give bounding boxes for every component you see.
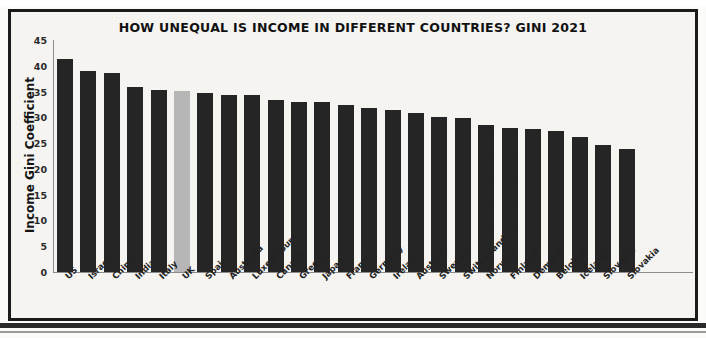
bar-series: [57, 40, 693, 272]
y-axis-line: [53, 40, 54, 273]
page-top-margin: [0, 0, 706, 6]
plot-area: 051015202530354045: [53, 40, 693, 273]
page-bottom-rule-secondary: [0, 331, 706, 333]
bar-india: [127, 87, 143, 272]
bar-austria: [408, 113, 424, 272]
y-tick-label: 25: [34, 138, 47, 149]
y-tick-label: 20: [34, 163, 47, 174]
chart-screenshot: HOW UNEQUAL IS INCOME IN DIFFERENT COUNT…: [0, 0, 706, 338]
bar-japan: [314, 102, 330, 272]
y-tick-label: 45: [34, 35, 47, 46]
y-tick-label: 40: [34, 60, 47, 71]
bar-sweden: [431, 117, 447, 272]
y-tick-label: 15: [34, 189, 47, 200]
y-tick-label: 10: [34, 215, 47, 226]
y-tick-label: 5: [40, 241, 47, 252]
bar-australia: [221, 95, 237, 272]
bar-uk: [174, 91, 190, 272]
bar-us: [57, 59, 73, 272]
bar-spain: [197, 93, 213, 272]
y-tick-label: 0: [40, 267, 47, 278]
chart-title: HOW UNEQUAL IS INCOME IN DIFFERENT COUNT…: [0, 20, 706, 35]
bar-france: [338, 105, 354, 272]
bar-israel: [80, 71, 96, 272]
bar-italy: [151, 90, 167, 272]
bar-greece: [291, 102, 307, 272]
bar-china: [104, 73, 120, 272]
y-tick-label: 35: [34, 86, 47, 97]
y-tick-label: 30: [34, 112, 47, 123]
bar-germany: [361, 108, 377, 272]
page-bottom-rule: [0, 323, 706, 328]
